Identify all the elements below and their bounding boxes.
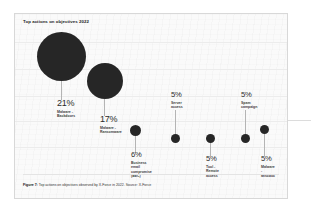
value-label: 5% (261, 154, 275, 163)
value-label: 6% (131, 150, 152, 159)
figure-caption-text: Top actions on objectives observed by X-… (38, 183, 151, 187)
value-label: 5% (241, 90, 257, 99)
bubble-marker[interactable] (260, 125, 269, 134)
bubble-marker[interactable] (37, 32, 86, 81)
data-label: 21% Malware - Backdoors (57, 98, 75, 119)
figure-container: Top actions on objectives 2022 21% Malwa… (14, 13, 288, 199)
value-label: 5% (206, 154, 219, 163)
value-label: 21% (57, 98, 75, 108)
category-label: Spam campaign (241, 101, 257, 110)
bubble-marker[interactable] (171, 134, 180, 143)
bleed-rule (288, 120, 311, 121)
bubble-marker[interactable] (206, 134, 215, 143)
category-label: Malware - Backdoors (57, 110, 75, 119)
value-label: 17% (100, 114, 122, 124)
figure-number: Figure 7: (23, 183, 38, 187)
bubble-marker[interactable] (241, 134, 250, 143)
category-label: Malware - Miscdoc (261, 165, 275, 178)
category-label: Server access (171, 101, 183, 110)
value-label: 5% (171, 90, 183, 99)
category-label: Malware - Ransomware (100, 126, 122, 135)
leader-line (264, 134, 265, 156)
bubble-marker[interactable] (87, 63, 123, 99)
leader-line (245, 110, 246, 134)
caption-divider (23, 174, 279, 175)
category-label: Business email compromise (BEC) (131, 161, 152, 178)
data-label: 5% Spam campaign (241, 90, 257, 110)
category-label: Tool - Remote access (206, 165, 219, 178)
bubble-marker[interactable] (130, 125, 141, 136)
figure-caption: Figure 7: Top actions on objectives obse… (23, 183, 151, 187)
plot-area: 21% Malware - Backdoors 17% Malware - Ra… (15, 14, 287, 198)
leader-line (175, 110, 176, 134)
data-label: 17% Malware - Ransomware (100, 114, 122, 135)
data-label: 5% Server access (171, 90, 183, 110)
